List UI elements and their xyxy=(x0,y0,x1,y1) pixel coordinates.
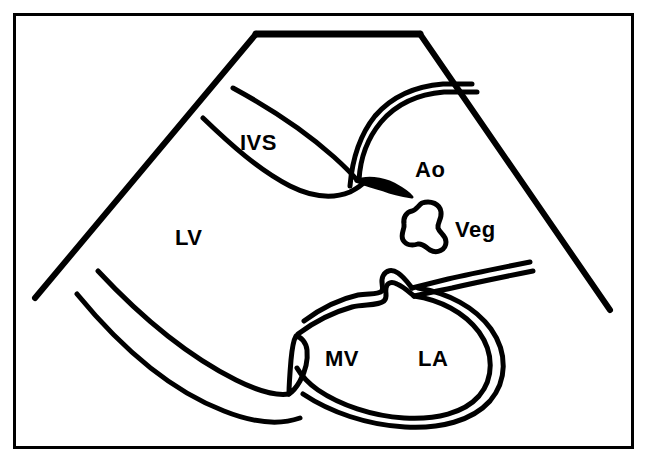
outer-border xyxy=(15,15,633,448)
mitral-anterior-leaflet-upper xyxy=(304,271,412,321)
label-ivs: IVS xyxy=(240,130,277,155)
label-ao: Ao xyxy=(415,157,445,182)
label-lv: LV xyxy=(175,225,202,250)
aortic-valve-leaflet xyxy=(356,178,412,197)
mitral-posterior-leaflet xyxy=(289,336,307,394)
sector-left-edge xyxy=(35,34,256,298)
label-veg: Veg xyxy=(455,217,496,242)
lv-posterior-wall-epicardium xyxy=(77,294,300,422)
echo-diagram-figure: IVS Ao Veg LV MV LA xyxy=(0,0,645,458)
vegetation-mass xyxy=(402,202,446,252)
sector-right-edge xyxy=(420,34,610,310)
lv-posterior-wall-endocardium xyxy=(98,271,289,394)
label-mv: MV xyxy=(325,346,359,371)
echo-diagram-canvas: IVS Ao Veg LV MV LA xyxy=(0,0,645,458)
label-la: LA xyxy=(418,346,448,371)
mitral-anterior-leaflet-lower xyxy=(298,283,414,334)
ivs-lower-border xyxy=(203,118,367,196)
